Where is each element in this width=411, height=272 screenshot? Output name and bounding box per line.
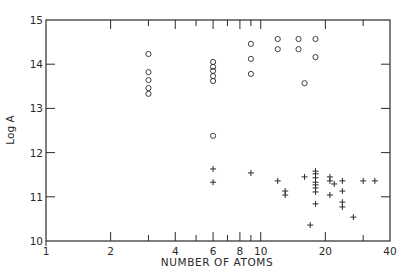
circle-marker (275, 36, 280, 41)
y-tick-label: 14 (30, 58, 44, 70)
x-axis-label: NUMBER OF ATOMS (161, 256, 273, 268)
cross-marker (350, 214, 356, 220)
circle-marker (313, 55, 318, 60)
y-tick-label: 11 (30, 191, 43, 203)
cross-marker (282, 192, 288, 198)
cross-marker (327, 178, 333, 184)
cross-marker (210, 166, 216, 172)
y-tick-label: 13 (30, 102, 43, 114)
circle-marker (302, 81, 307, 86)
circle-marker (296, 47, 301, 52)
circle-marker (275, 47, 280, 52)
cross-marker (248, 170, 254, 176)
scatter-chart: 12468102040 101112131415 NUMBER OF ATOMS… (0, 0, 411, 272)
cross-marker (307, 222, 313, 228)
y-axis-label: Log A (4, 115, 16, 145)
cross-marker (210, 179, 216, 185)
x-tick-label: 40 (383, 245, 396, 257)
y-tick-label: 15 (30, 14, 43, 26)
circle-marker (248, 41, 253, 46)
y-tick-label: 12 (30, 147, 43, 159)
cross-marker (275, 178, 281, 184)
x-axis-ticks: 12468102040 (43, 20, 397, 257)
cross-marker (313, 189, 319, 195)
cross-marker (302, 174, 308, 180)
y-axis-ticks: 101112131415 (30, 14, 390, 247)
x-tick-label: 20 (319, 245, 332, 257)
cross-marker (360, 178, 366, 184)
cross-marker (339, 188, 345, 194)
cross-marker (313, 201, 319, 207)
plot-border (46, 20, 390, 241)
circle-marker (146, 51, 151, 56)
circle-marker (313, 36, 318, 41)
circle-marker (248, 56, 253, 61)
circle-marker (146, 70, 151, 75)
cross-marker (339, 178, 345, 184)
circle-marker (210, 133, 215, 138)
cross-marker (327, 192, 333, 198)
circle-marker (146, 91, 151, 96)
circle-marker (248, 71, 253, 76)
x-tick-label: 1 (43, 245, 50, 257)
x-tick-label: 2 (107, 245, 114, 257)
circle-marker (146, 85, 151, 90)
circle-marker (146, 78, 151, 83)
cross-marker (339, 204, 345, 210)
cross-marker (372, 178, 378, 184)
cross-marker (331, 181, 337, 187)
circle-marker (296, 36, 301, 41)
y-tick-label: 10 (30, 235, 43, 247)
plot-frame (46, 20, 390, 241)
data-points (146, 36, 378, 228)
